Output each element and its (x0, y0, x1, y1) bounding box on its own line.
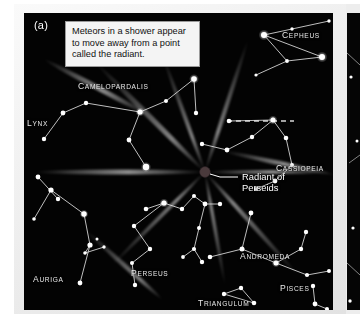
sky-chart-panel-b[interactable] (347, 13, 360, 310)
constellation-label-perseus: PERSEUS (131, 268, 168, 278)
constellation-label-cassiopeia: CASSIOPEIA (276, 163, 324, 173)
constellation-label-cepheus: CEPHEUS (282, 30, 320, 40)
panel-letter: (a) (34, 19, 48, 31)
constellation-label-triangulum: TRIANGULUM (198, 298, 249, 308)
constellation-label-andromeda: ANDROMEDA (240, 251, 290, 261)
radiant-label-line2: Perseids (242, 182, 278, 193)
constellation-label-auriga: AURIGA (33, 274, 64, 284)
panel-b-svg (347, 13, 360, 310)
constellation-label-pisces: PISCES (280, 283, 309, 293)
radiant-marker[interactable] (200, 167, 211, 178)
figure-root: (a) Meteors in a shower appear to move a… (0, 0, 360, 329)
constellation-label-lynx: LYNX (27, 118, 48, 128)
constellation-label-camelopardalis: CAMELOPARDALIS (78, 81, 149, 91)
sky-chart-panel-a[interactable]: (a) Meteors in a shower appear to move a… (24, 13, 333, 310)
callout-textbox: Meteors in a shower appear to move away … (65, 21, 200, 67)
